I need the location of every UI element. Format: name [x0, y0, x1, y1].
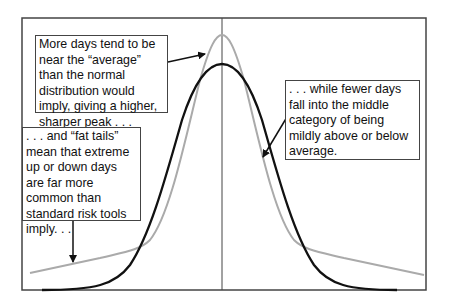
peak-arrow: [168, 54, 205, 62]
peak-annotation: More days tend to be near the “average” …: [35, 35, 168, 113]
tails-annotation: . . . and “fat tails” mean that extreme …: [22, 127, 141, 221]
middle-annotation: . . . while fewer days fall into the mid…: [285, 80, 420, 160]
